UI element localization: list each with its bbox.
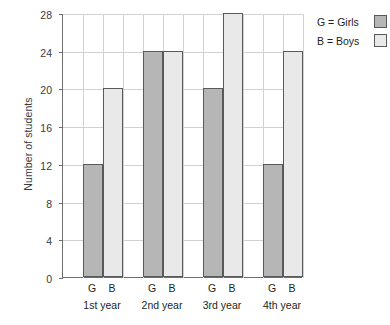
bar-4th-year-B xyxy=(283,51,303,277)
bar-2nd-year-B xyxy=(163,51,183,277)
y-tick-label: 24 xyxy=(40,47,52,59)
y-tick-mark: 28 xyxy=(59,14,63,15)
y-tick-mark: 12 xyxy=(59,165,63,166)
legend-label: B = Boys xyxy=(317,35,371,47)
y-tick-label: 20 xyxy=(40,84,52,96)
gridline-vertical xyxy=(123,14,124,278)
legend-swatch xyxy=(374,15,387,28)
gridline-vertical xyxy=(183,14,184,278)
bar-1st-year-G xyxy=(83,164,103,277)
x-sublabel-B: B xyxy=(108,282,115,294)
x-group-label: 2nd year xyxy=(142,299,183,311)
bar-2nd-year-G xyxy=(143,51,163,277)
x-sublabel-G: G xyxy=(208,282,216,294)
bar-chart-figure: Number of students 0481216202428 GB1st y… xyxy=(0,0,390,325)
bar-1st-year-B xyxy=(103,88,123,277)
y-tick-mark: 8 xyxy=(59,203,63,204)
legend-label: G = Girls xyxy=(317,16,371,28)
legend-swatch xyxy=(374,34,387,47)
y-tick-label: 8 xyxy=(46,198,52,210)
x-group-label: 4th year xyxy=(263,299,301,311)
y-tick-mark: 16 xyxy=(59,127,63,128)
x-sublabel-B: B xyxy=(168,282,175,294)
x-sublabel-G: G xyxy=(148,282,156,294)
y-axis-title: Number of students xyxy=(22,64,34,224)
bar-4th-year-G xyxy=(263,164,283,277)
y-tick-mark: 24 xyxy=(59,52,63,53)
x-group-label: 3rd year xyxy=(203,299,242,311)
gridline-vertical xyxy=(303,14,304,278)
y-tick-label: 28 xyxy=(40,9,52,21)
bar-3rd-year-G xyxy=(203,88,223,277)
y-tick-label: 16 xyxy=(40,122,52,134)
y-tick-mark: 0 xyxy=(59,278,63,279)
x-sublabel-G: G xyxy=(268,282,276,294)
legend-item: G = Girls xyxy=(317,12,387,31)
x-sublabel-B: B xyxy=(288,282,295,294)
gridline-vertical xyxy=(243,14,244,278)
y-tick-label: 4 xyxy=(46,235,52,247)
bar-3rd-year-B xyxy=(223,13,243,277)
chart-legend: G = GirlsB = Boys xyxy=(317,12,387,50)
y-tick-label: 0 xyxy=(46,273,52,285)
x-group-label: 1st year xyxy=(83,299,120,311)
plot-area: 0481216202428 xyxy=(62,14,302,278)
x-sublabel-G: G xyxy=(88,282,96,294)
y-tick-label: 12 xyxy=(40,160,52,172)
y-tick-mark: 20 xyxy=(59,89,63,90)
x-sublabel-B: B xyxy=(228,282,235,294)
y-tick-mark: 4 xyxy=(59,240,63,241)
legend-item: B = Boys xyxy=(317,31,387,50)
